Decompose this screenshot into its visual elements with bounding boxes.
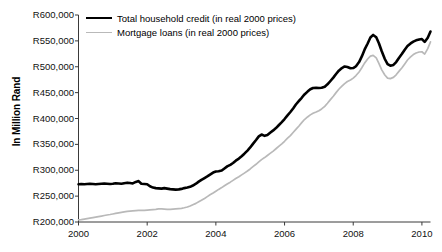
y-axis-tick-label: R600,000 [16, 10, 74, 20]
legend-label-total-credit: Total household credit (in real 2000 pri… [117, 13, 296, 24]
x-axis-tick-label: 2004 [196, 228, 236, 239]
x-axis-tick-label: 2002 [127, 228, 167, 239]
y-axis-tick-label: R350,000 [16, 139, 74, 149]
chart-container: In Million Rand R200,000R250,000R300,000… [0, 0, 442, 252]
y-axis-tick-label: R200,000 [16, 217, 74, 227]
chart-legend: Total household credit (in real 2000 pri… [86, 11, 296, 39]
y-axis-tick-label: R550,000 [16, 36, 74, 46]
axis-lines [79, 15, 431, 222]
data-series-layer [79, 32, 431, 220]
y-axis-tick-label: R450,000 [16, 88, 74, 98]
x-axis-tick-label: 2000 [59, 228, 99, 239]
legend-line-swatch-total-credit [86, 17, 112, 19]
x-axis-tick-label: 2006 [265, 228, 305, 239]
legend-item: Mortgage loans (in real 2000 prices) [86, 25, 296, 39]
legend-item: Total household credit (in real 2000 pri… [86, 11, 296, 25]
legend-line-swatch-mortgage-loans [86, 32, 112, 33]
x-axis-tick-label: 2010 [402, 228, 442, 239]
legend-label-mortgage-loans: Mortgage loans (in real 2000 prices) [117, 27, 269, 38]
y-axis-tick-label: R300,000 [16, 165, 74, 175]
x-axis-tick-label: 2008 [333, 228, 373, 239]
y-axis-tick-label: R500,000 [16, 62, 74, 72]
y-axis-tick-label: R250,000 [16, 191, 74, 201]
y-axis-tick-labels: R200,000R250,000R300,000R350,000R400,000… [16, 0, 74, 252]
axis-tick-marks [75, 15, 422, 226]
y-axis-tick-label: R400,000 [16, 114, 74, 124]
